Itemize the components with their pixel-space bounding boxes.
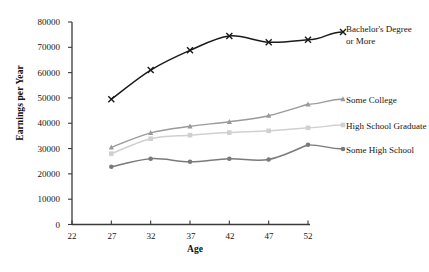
y-tick-label-60000: 60000 (14, 68, 60, 78)
y-tick-label-40000: 40000 (14, 118, 60, 128)
data-point-marker (148, 136, 153, 141)
series-bachelor-s-degree (108, 33, 311, 102)
y-axis-title: Earnings per Year (15, 48, 25, 158)
x-tick-label-47: 47 (254, 231, 284, 241)
data-point-marker (109, 164, 114, 169)
x-tick-label-22: 22 (57, 231, 87, 241)
x-tick-label-52: 52 (293, 231, 323, 241)
data-point-marker (148, 156, 153, 161)
data-point-marker (266, 129, 271, 134)
x-axis-title: Age (175, 244, 215, 254)
y-tick-label-0: 0 (14, 220, 60, 230)
data-point-marker (227, 156, 232, 161)
x-tick-label-27: 27 (97, 231, 127, 241)
y-tick-label-70000: 70000 (14, 42, 60, 52)
legend-connector-bachelor-s-degree (308, 29, 346, 40)
legend-connector-high-school-graduate (308, 123, 345, 128)
chart-figure: Earnings per Year Age 80000 70000 60000 … (0, 0, 429, 272)
data-point-marker (188, 133, 193, 138)
legend-connector-line (308, 99, 343, 104)
legend-label-high-school-graduate: High School Graduate (346, 121, 426, 133)
legend-connector-some-college (308, 96, 346, 104)
data-point-marker (109, 151, 114, 156)
data-point-marker (341, 147, 346, 152)
legend-connector-line (308, 125, 343, 128)
legend-label-bachelors-degree-or-more: Bachelor's Degree or More (346, 24, 412, 47)
series-some-high-school (109, 142, 310, 169)
y-tick-label-80000: 80000 (14, 17, 60, 27)
data-point-marker (188, 159, 193, 164)
legend-label-some-high-school: Some High School (346, 145, 414, 157)
data-point-marker (227, 130, 232, 135)
x-tick-label-37: 37 (176, 231, 206, 241)
data-point-marker (341, 123, 346, 128)
y-tick-label-10000: 10000 (14, 194, 60, 204)
legend-label-some-college: Some College (346, 95, 397, 107)
series-high-school-graduate (109, 126, 310, 156)
y-tick-label-30000: 30000 (14, 144, 60, 154)
data-point-marker (266, 157, 271, 162)
legend-connector-some-high-school (308, 145, 345, 152)
series-line (111, 36, 308, 99)
series-line (111, 128, 308, 154)
legend-connector-line (308, 145, 343, 149)
x-tick-label-32: 32 (136, 231, 166, 241)
series-line (111, 145, 308, 167)
y-tick-label-20000: 20000 (14, 169, 60, 179)
series-line (111, 104, 308, 147)
y-tick-label-50000: 50000 (14, 93, 60, 103)
legend-connector-line (308, 32, 343, 40)
x-tick-label-42: 42 (215, 231, 245, 241)
